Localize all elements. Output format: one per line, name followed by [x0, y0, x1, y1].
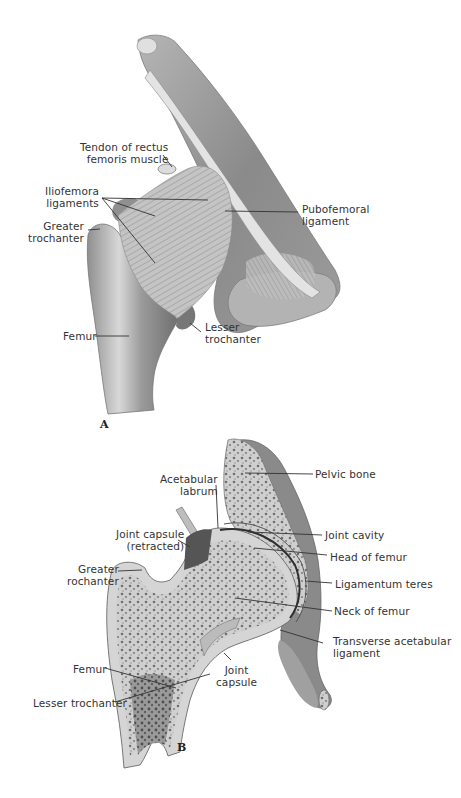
- label-line: Greater: [67, 563, 119, 575]
- label-line: rochanter: [67, 575, 119, 587]
- label-line: Femur: [73, 663, 107, 675]
- label-femur-b: Femur: [73, 663, 107, 675]
- label-line: trochanter: [205, 333, 261, 345]
- label-line: ligaments: [45, 197, 99, 209]
- label-line: capsule: [216, 676, 257, 688]
- label-line: Tendon of rectus: [80, 141, 168, 153]
- label-line: ligament: [302, 215, 369, 227]
- label-line: Joint capsule: [116, 528, 184, 540]
- panel-b-letter: B: [177, 741, 186, 754]
- label-line: Greater: [28, 220, 84, 232]
- label-head-of-femur: Head of femur: [330, 551, 407, 563]
- label-line: Femur: [63, 330, 97, 342]
- label-pelvic-bone: Pelvic bone: [315, 468, 376, 480]
- label-line: (retracted): [116, 540, 184, 552]
- label-greater-trochanter-b: Greater rochanter: [67, 563, 119, 587]
- label-ligamentum-teres: Ligamentum teres: [335, 578, 433, 590]
- label-joint-cavity: Joint cavity: [325, 529, 384, 541]
- label-line: labrum: [160, 485, 218, 497]
- label-line: Joint: [216, 664, 257, 676]
- label-line: Pelvic bone: [315, 468, 376, 480]
- label-line: Ligamentum teres: [335, 578, 433, 590]
- label-transverse-acetabular-ligament: Transverse acetabular ligament: [333, 635, 451, 659]
- label-line: ligament: [333, 647, 451, 659]
- label-femur-a: Femur: [63, 330, 97, 342]
- label-line: Lesser trochanter: [33, 697, 127, 709]
- label-lesser-trochanter-b: Lesser trochanter: [33, 697, 127, 709]
- label-neck-of-femur: Neck of femur: [334, 605, 410, 617]
- label-pubofemoral-ligament: Pubofemoral ligament: [302, 203, 369, 227]
- label-line: Neck of femur: [334, 605, 410, 617]
- label-line: Head of femur: [330, 551, 407, 563]
- label-iliofemoral-ligaments: Iliofemora ligaments: [45, 185, 99, 209]
- label-acetabular-labrum: Acetabular labrum: [160, 473, 218, 497]
- label-greater-trochanter-a: Greater trochanter: [28, 220, 84, 244]
- label-tendon-of-rectus-femoris: Tendon of rectus femoris muscle: [80, 141, 168, 165]
- label-line: trochanter: [28, 232, 84, 244]
- label-joint-capsule-retracted: Joint capsule (retracted): [116, 528, 184, 552]
- label-line: Pubofemoral: [302, 203, 369, 215]
- label-lesser-trochanter-a: Lesser trochanter: [205, 321, 261, 345]
- label-line: Lesser: [205, 321, 261, 333]
- panel-a-letter: A: [100, 418, 109, 431]
- hip-joint-figure: Tendon of rectus femoris muscle Iliofemo…: [0, 0, 461, 798]
- label-line: Joint cavity: [325, 529, 384, 541]
- label-line: femoris muscle: [80, 153, 168, 165]
- label-line: Acetabular: [160, 473, 218, 485]
- label-joint-capsule: Joint capsule: [216, 664, 257, 688]
- label-line: Iliofemora: [45, 185, 99, 197]
- label-line: Transverse acetabular: [333, 635, 451, 647]
